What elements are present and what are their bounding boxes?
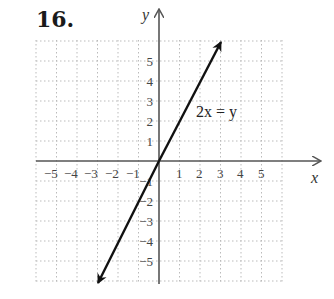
svg-text:−4: −4 [64,166,78,181]
svg-text:5: 5 [258,166,265,181]
equation-label: 2x = y [196,103,237,121]
svg-text:−5: −5 [44,166,58,181]
svg-text:3: 3 [147,94,154,109]
svg-text:−5: −5 [139,254,153,269]
svg-text:4: 4 [237,166,244,181]
svg-text:2: 2 [147,114,154,129]
svg-text:4: 4 [147,74,154,89]
x-axis-label: x [310,169,318,186]
svg-text:2: 2 [196,166,203,181]
svg-text:−3: −3 [84,166,98,181]
svg-text:−2: −2 [105,166,119,181]
coordinate-plane: y x −5 −4 −3 −2 −1 1 2 3 4 5 5 4 3 2 1 −… [0,0,334,299]
svg-text:3: 3 [217,166,224,181]
svg-text:5: 5 [147,54,154,69]
svg-text:1: 1 [176,166,183,181]
svg-text:1: 1 [147,134,154,149]
svg-text:−3: −3 [139,214,153,229]
svg-text:−1: −1 [126,166,140,181]
svg-text:−4: −4 [139,234,153,249]
y-axis-label: y [140,6,150,24]
